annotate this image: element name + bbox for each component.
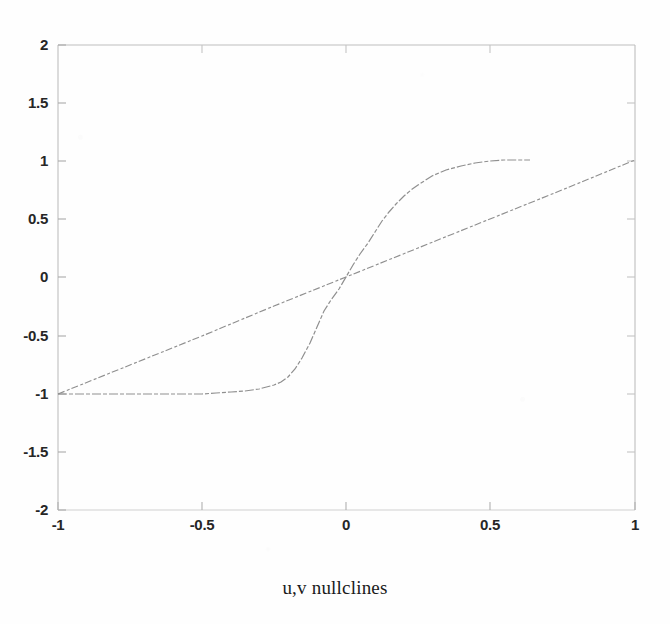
series-u-nullcline xyxy=(58,160,530,394)
y-tick-marks xyxy=(58,45,66,510)
series-v-nullcline xyxy=(58,160,635,394)
x-tick-marks xyxy=(58,502,635,510)
ytick-label-neg0_5: -0.5 xyxy=(10,327,48,344)
ytick-label-0_5: 0.5 xyxy=(10,210,48,227)
xtick-label-0_5: 0.5 xyxy=(466,516,514,533)
x-tick-marks-top xyxy=(202,45,490,53)
ytick-label-neg1_5: -1.5 xyxy=(10,443,48,460)
figure-canvas: 2 1.5 1 0.5 0 -0.5 -1 -1.5 -2 -1 -0.5 0 … xyxy=(0,0,670,624)
y-tick-marks-right xyxy=(627,103,635,452)
ytick-label-2: 2 xyxy=(10,36,48,53)
ytick-label-1_5: 1.5 xyxy=(10,94,48,111)
ytick-label-0: 0 xyxy=(10,268,48,285)
xtick-label-neg0_5: -0.5 xyxy=(178,516,226,533)
xtick-label-neg1: -1 xyxy=(38,516,78,533)
xtick-label-1: 1 xyxy=(615,516,655,533)
ytick-label-neg1: -1 xyxy=(10,385,48,402)
xtick-label-0: 0 xyxy=(326,516,366,533)
axis-frame xyxy=(58,45,635,510)
ytick-label-1: 1 xyxy=(10,152,48,169)
figure-caption: u,v nullclines xyxy=(0,577,670,599)
